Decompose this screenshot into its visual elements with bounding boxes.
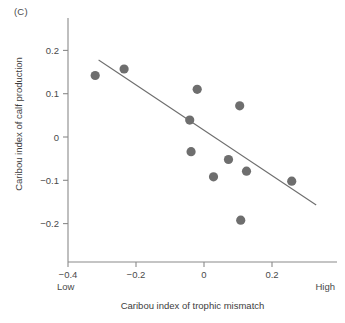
data-point: [193, 85, 202, 94]
y-tick-label: 0.2: [46, 45, 59, 56]
x-axis-title: Caribou index of trophic mismatch: [121, 300, 265, 311]
data-point: [224, 155, 233, 164]
y-tick-label: −0.1: [40, 175, 59, 186]
y-tick-label: 0: [54, 132, 59, 143]
x-tick-label: 0: [201, 269, 206, 280]
figure-panel-c: (C) 0.20.10−0.1−0.2−0.4−0.200.2LowHigh C…: [0, 0, 345, 323]
x-tick-label: −0.2: [127, 269, 146, 280]
data-point: [91, 71, 100, 80]
axes-group: [68, 18, 337, 262]
regression-line: [99, 60, 317, 205]
data-point: [209, 172, 218, 181]
data-point: [120, 64, 129, 73]
x-tick-label: −0.4: [59, 269, 78, 280]
data-points-group: [91, 64, 297, 224]
x-tick-label: 0.2: [265, 269, 278, 280]
y-tick-label: −0.2: [40, 218, 59, 229]
data-point: [186, 147, 195, 156]
trend-line-group: [99, 60, 317, 205]
data-point: [242, 167, 251, 176]
data-point: [236, 216, 245, 225]
scatter-plot: 0.20.10−0.1−0.2−0.4−0.200.2LowHigh Carib…: [0, 0, 345, 323]
y-axis-title: Caribou index of calf production: [13, 57, 24, 191]
data-point: [287, 177, 296, 186]
data-point: [235, 101, 244, 110]
x-axis-low-label: Low: [57, 281, 75, 292]
tick-marks-group: [63, 50, 272, 267]
tick-labels-group: 0.20.10−0.1−0.2−0.4−0.200.2LowHigh: [40, 45, 335, 292]
x-axis-high-label: High: [315, 281, 335, 292]
y-tick-label: 0.1: [46, 88, 59, 99]
data-point: [185, 116, 194, 125]
